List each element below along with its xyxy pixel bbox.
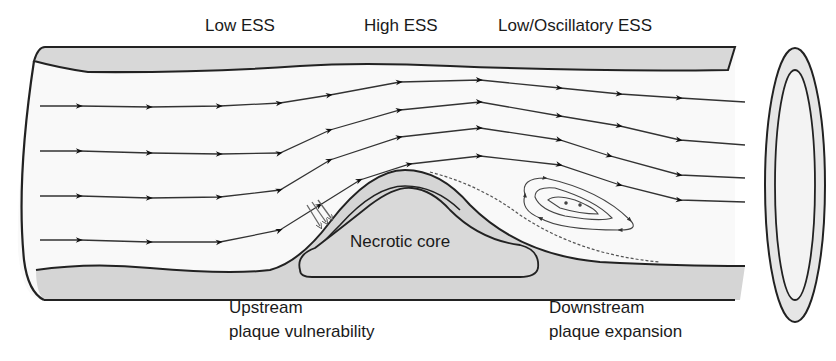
artery-diagram xyxy=(0,0,836,361)
label-high-ess: High ESS xyxy=(364,14,438,38)
label-low-oscillatory-ess: Low/Oscillatory ESS xyxy=(498,14,652,38)
label-downstream-line1: Downstream xyxy=(549,296,682,320)
label-downstream-line2: plaque expansion xyxy=(549,320,682,344)
label-upstream: Upstream plaque vulnerability xyxy=(229,296,375,344)
label-downstream: Downstream plaque expansion xyxy=(549,296,682,344)
label-low-ess: Low ESS xyxy=(205,14,275,38)
label-necrotic-core: Necrotic core xyxy=(350,230,450,254)
label-upstream-line1: Upstream xyxy=(229,296,375,320)
label-upstream-line2: plaque vulnerability xyxy=(229,320,375,344)
